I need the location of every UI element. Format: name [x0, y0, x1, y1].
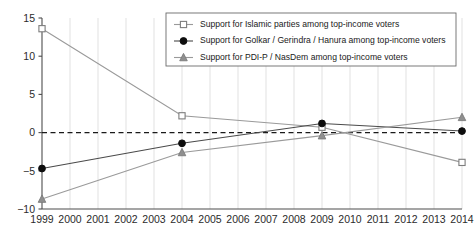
legend-marker-0: [180, 21, 186, 27]
data-point-s1-2004: [179, 140, 186, 147]
x-tick-label-2011: 2011: [367, 213, 390, 225]
legend: Support for Islamic parties among top-in…: [166, 13, 456, 66]
x-tick-label-2003: 2003: [142, 213, 166, 225]
legend-item-0: Support for Islamic parties among top-in…: [174, 19, 399, 29]
legend-item-1: Support for Golkar / Gerindra / Hanura a…: [174, 35, 446, 45]
legend-marker-1: [180, 38, 187, 45]
data-point-s0-2014: [459, 159, 465, 165]
x-tick-label-2001: 2001: [86, 213, 110, 225]
x-tick-label-2000: 2000: [58, 213, 82, 225]
x-tick-label-2007: 2007: [254, 213, 278, 225]
chart-container: 151050−5−10 1999200020012002200320042005…: [0, 0, 474, 235]
x-tick-label-2006: 2006: [226, 213, 250, 225]
y-tick-label-0: 0: [29, 126, 35, 138]
x-tick-label-2014: 2014: [450, 213, 474, 225]
x-tick-label-2012: 2012: [394, 213, 418, 225]
legend-item-2: Support for PDI-P / NasDem among top-inc…: [174, 52, 408, 62]
x-tick-label-2013: 2013: [422, 213, 446, 225]
x-tick-label-1999: 1999: [30, 213, 54, 225]
y-tick-label--5: −5: [23, 165, 35, 177]
legend-label-1: Support for Golkar / Gerindra / Hanura a…: [200, 35, 446, 45]
x-tick-label-2004: 2004: [170, 213, 194, 225]
legend-label-2: Support for PDI-P / NasDem among top-inc…: [200, 52, 408, 62]
x-tick-label-2002: 2002: [114, 213, 138, 225]
x-tick-label-2008: 2008: [282, 213, 306, 225]
x-tick-label-2010: 2010: [338, 213, 362, 225]
y-tick-label-5: 5: [29, 88, 35, 100]
x-tick-label-2009: 2009: [310, 213, 334, 225]
y-tick-label-10: 10: [23, 50, 35, 62]
data-point-s0-2004: [179, 113, 185, 119]
data-point-s0-1999: [39, 26, 45, 32]
data-point-s1-2009: [319, 120, 326, 127]
line-chart: 151050−5−10 1999200020012002200320042005…: [0, 0, 474, 235]
x-tick-label-2005: 2005: [198, 213, 222, 225]
data-point-s1-1999: [39, 165, 46, 172]
y-tick-label-15: 15: [23, 12, 35, 24]
legend-label-0: Support for Islamic parties among top-in…: [200, 19, 399, 29]
data-point-s1-2014: [459, 128, 466, 135]
